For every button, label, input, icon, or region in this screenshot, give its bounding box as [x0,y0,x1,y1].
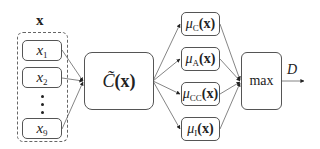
ellipsis-dot [41,95,44,98]
input-feature-x1: x1 [22,40,62,61]
membership-label: μC(x) [186,16,215,33]
input-vector-label: x [36,12,44,29]
ellipsis-dot [41,103,44,106]
membership-mu-a: μA(x) [181,47,220,71]
membership-mu-c: μC(x) [181,12,220,36]
membership-label: μA(x) [186,51,216,68]
output-label: D [287,62,297,78]
classifier-label: C̃(x) [102,71,135,92]
input-feature-label: x9 [36,120,47,138]
max-label: max [249,73,273,89]
input-feature-x9: x9 [22,118,62,139]
classifier-block: C̃(x) [84,52,154,110]
input-feature-label: x2 [36,69,47,87]
membership-mu-cc: μCC(x) [181,82,220,106]
membership-label: μI(x) [187,121,213,138]
membership-mu-i: μI(x) [181,117,220,141]
ellipsis-dot [41,111,44,114]
max-block: max [241,52,282,110]
membership-label: μCC(x) [183,86,218,103]
input-feature-label: x1 [36,42,47,60]
input-feature-x2: x2 [22,67,62,88]
